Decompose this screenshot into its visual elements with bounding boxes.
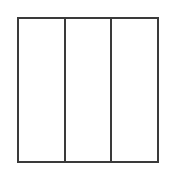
panel-middle bbox=[64, 19, 111, 161]
three-column-square bbox=[17, 17, 159, 163]
panel-left bbox=[19, 19, 64, 161]
panel-right bbox=[110, 19, 157, 161]
